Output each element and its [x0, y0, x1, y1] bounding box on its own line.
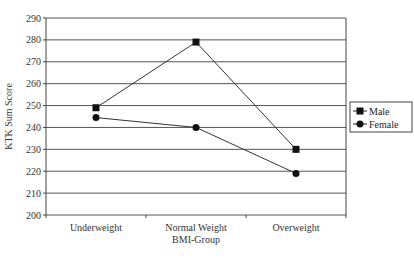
series-female [93, 114, 300, 177]
female-point [293, 170, 300, 177]
series [93, 39, 300, 177]
y-tick-label: 230 [26, 144, 41, 155]
y-tick-label: 270 [26, 56, 41, 67]
line-chart: 200210220230240250260270280290 Underweig… [0, 0, 414, 259]
y-tick-label: 240 [26, 122, 41, 133]
legend-label: Female [369, 119, 399, 130]
legend: MaleFemale [350, 102, 412, 132]
y-tick-label: 210 [26, 188, 41, 199]
gridlines [46, 18, 346, 215]
y-tick-label: 250 [26, 100, 41, 111]
x-tick-label: Normal Weight [165, 222, 227, 233]
y-tick-label: 280 [26, 34, 41, 45]
y-axis-title: KTK Sum Score [3, 83, 14, 150]
female-point [193, 124, 200, 131]
y-tick-label: 290 [26, 13, 41, 24]
series-male [93, 39, 300, 153]
x-axis-title: BMI-Group [172, 234, 220, 245]
legend-marker-circle-icon [357, 121, 364, 128]
male-point [93, 104, 100, 111]
female-point [93, 114, 100, 121]
y-tick-labels: 200210220230240250260270280290 [26, 13, 41, 221]
x-tick-labels: UnderweightNormal WeightOverweight [70, 222, 320, 233]
legend-marker-square-icon [357, 108, 364, 115]
x-tick-label: Underweight [70, 222, 122, 233]
y-tick-label: 260 [26, 78, 41, 89]
x-tick-label: Overweight [272, 222, 319, 233]
male-point [293, 146, 300, 153]
y-tick-label: 200 [26, 210, 41, 221]
male-point [193, 39, 200, 46]
legend-label: Male [369, 106, 390, 117]
axes [43, 18, 346, 218]
y-tick-label: 220 [26, 166, 41, 177]
series-line-male [96, 42, 296, 149]
